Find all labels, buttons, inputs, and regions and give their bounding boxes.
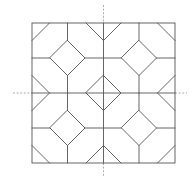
edge-triangle-line <box>158 76 176 94</box>
corner-diagonal <box>158 23 176 41</box>
tiling-diagram <box>0 0 194 182</box>
pattern-lines <box>32 23 175 163</box>
corner-diagonal <box>158 146 176 164</box>
diamond-shape <box>122 111 157 146</box>
diamond-shape <box>50 41 85 76</box>
corner-diagonal <box>32 23 50 41</box>
edge-triangle-line <box>158 93 176 111</box>
corner-diagonal <box>32 146 50 164</box>
edge-triangle-line <box>104 23 122 41</box>
diamond-shape <box>50 111 85 146</box>
edge-triangle-line <box>86 146 104 164</box>
edge-triangle-line <box>32 93 50 111</box>
diamond-shape <box>122 41 157 76</box>
edge-triangle-line <box>86 23 104 41</box>
edge-triangle-line <box>32 76 50 94</box>
edge-triangle-line <box>104 146 122 164</box>
center-axes <box>13 5 187 177</box>
